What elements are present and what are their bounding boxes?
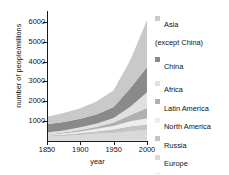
y-tick-label: 1000 <box>29 117 45 124</box>
legend-swatch-icon <box>155 16 160 21</box>
y-axis-line <box>47 11 48 142</box>
x-tick-label: 1900 <box>72 146 88 153</box>
legend-label: Russia <box>164 141 187 150</box>
x-tick-label: 1850 <box>39 146 55 153</box>
legend-item[interactable]: Asia (except China) <box>155 13 229 49</box>
y-tick-label: 4000 <box>29 58 45 65</box>
legend-item[interactable]: Australasia and Pacific <box>155 171 229 175</box>
x-axis-title: year <box>47 158 148 165</box>
legend-label: North America <box>164 122 211 131</box>
legend-swatch-icon <box>155 99 160 104</box>
stacked-areas <box>47 12 147 141</box>
legend-label: Asia (except China) <box>155 20 203 47</box>
legend-swatch-icon <box>155 155 160 160</box>
legend-item[interactable]: Africa <box>155 78 229 96</box>
y-tick-label: 5000 <box>29 38 45 45</box>
legend-swatch-icon <box>155 136 160 141</box>
legend-label: Latin America <box>164 104 209 113</box>
legend-item[interactable]: China <box>155 55 229 73</box>
chart-figure: number of people/millions 10002000300040… <box>0 0 229 174</box>
legend-item[interactable]: Russia <box>155 134 229 152</box>
legend-swatch-icon <box>155 81 160 86</box>
legend-label: Africa <box>164 85 183 94</box>
y-tick-label: 6000 <box>29 18 45 25</box>
legend-item[interactable]: Latin America <box>155 97 229 115</box>
x-tick-label: 2000 <box>139 146 155 153</box>
legend-swatch-icon <box>155 118 160 123</box>
legend-item[interactable]: North America <box>155 115 229 133</box>
legend-label: Europe <box>164 159 188 168</box>
legend-swatch-icon <box>155 173 160 174</box>
legend: Asia (except China)ChinaAfricaLatin Amer… <box>155 13 229 174</box>
legend-item[interactable]: Europe <box>155 152 229 170</box>
legend-label: China <box>164 62 183 71</box>
area-series-group <box>47 12 147 141</box>
plot-area: 100020003000400050006000 185019001950200… <box>47 12 147 141</box>
y-axis-title: number of people/millions <box>15 6 22 126</box>
y-tick-label: 3000 <box>29 78 45 85</box>
legend-swatch-icon <box>155 57 160 62</box>
x-tick-label: 1950 <box>105 146 121 153</box>
y-tick-label: 2000 <box>29 98 45 105</box>
x-axis-line <box>47 141 148 142</box>
